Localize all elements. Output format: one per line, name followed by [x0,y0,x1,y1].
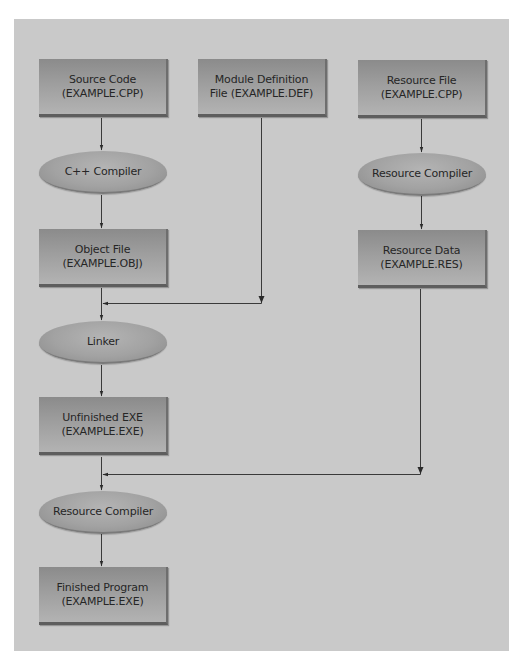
node-object-file-line2: (EXAMPLE.OBJ) [62,257,142,271]
node-resource-file-line1: Resource File [387,74,457,88]
node-resource-file-line2: (EXAMPLE.CPP) [381,88,463,102]
node-linker-label: Linker [87,335,119,349]
node-resource-data: Resource Data (EXAMPLE.RES) [358,230,487,288]
arrowhead-down-mid [259,296,265,303]
node-linker: Linker [39,321,167,364]
node-unfinished-exe: Unfinished EXE (EXAMPLE.EXE) [39,397,168,455]
node-source-code-line2: (EXAMPLE.CPP) [62,87,144,101]
node-cpp-compiler: C++ Compiler [39,151,167,194]
node-cpp-compiler-label: C++ Compiler [65,165,142,179]
node-module-definition-line1: Module Definition [215,73,308,87]
node-source-code-line1: Source Code [69,73,136,87]
node-source-code: Source Code (EXAMPLE.CPP) [39,59,168,117]
node-resource-compiler-label: Resource Compiler [372,167,472,181]
node-finished-program-line2: (EXAMPLE.EXE) [61,595,143,609]
node-resource-compiler-final: Resource Compiler [39,491,167,534]
node-module-definition: Module Definition File (EXAMPLE.DEF) [198,59,327,117]
node-resource-data-line2: (EXAMPLE.RES) [380,258,462,272]
node-resource-compiler-final-label: Resource Compiler [53,505,153,519]
node-resource-compiler: Resource Compiler [358,153,486,196]
node-resource-file: Resource File (EXAMPLE.CPP) [358,60,487,118]
node-object-file-line1: Object File [75,243,131,257]
node-unfinished-exe-line1: Unfinished EXE [62,411,143,425]
node-unfinished-exe-line2: (EXAMPLE.EXE) [61,425,143,439]
node-finished-program: Finished Program (EXAMPLE.EXE) [39,567,168,625]
node-module-definition-line2: File (EXAMPLE.DEF) [210,87,313,101]
node-finished-program-line1: Finished Program [57,581,149,595]
arrowhead-down-right [418,467,424,474]
node-object-file: Object File (EXAMPLE.OBJ) [39,229,168,287]
node-resource-data-line1: Resource Data [383,244,461,258]
